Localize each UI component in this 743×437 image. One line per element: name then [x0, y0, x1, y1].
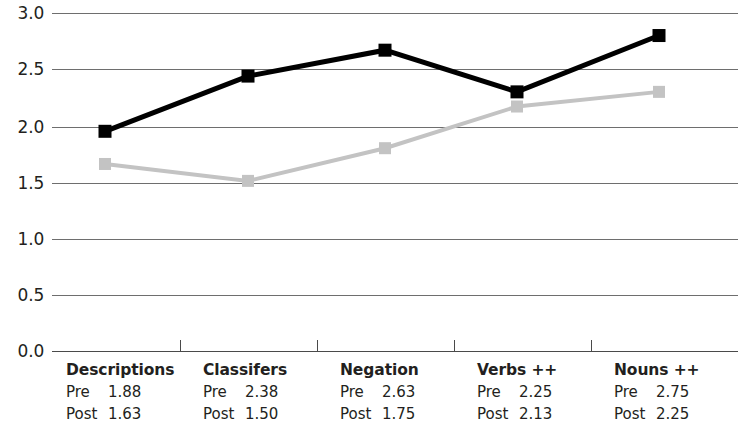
category-block-nouns: Nouns ++ Pre2.75 Post2.25 — [614, 360, 700, 425]
data-point-marker-post-4 — [653, 86, 665, 98]
pre-label: Pre — [340, 381, 382, 403]
category-pre-row: Pre2.38 — [203, 381, 287, 403]
series-layer — [0, 0, 743, 360]
category-label: Verbs ++ — [477, 360, 557, 381]
category-post-row: Post2.25 — [614, 403, 700, 425]
category-post-row: Post1.50 — [203, 403, 287, 425]
category-pre-row: Pre2.25 — [477, 381, 557, 403]
post-label: Post — [203, 403, 245, 425]
category-label: Nouns ++ — [614, 360, 700, 381]
data-point-marker-pre-2 — [379, 44, 392, 57]
pre-value: 1.88 — [108, 381, 141, 403]
post-label: Post — [477, 403, 519, 425]
data-point-marker-post-1 — [242, 175, 254, 187]
category-post-row: Post2.13 — [477, 403, 557, 425]
category-post-row: Post1.75 — [340, 403, 419, 425]
data-point-marker-pre-4 — [653, 29, 666, 42]
category-pre-row: Pre2.75 — [614, 381, 700, 403]
pre-value: 2.63 — [382, 381, 415, 403]
post-label: Post — [66, 403, 108, 425]
pre-value: 2.38 — [245, 381, 278, 403]
pre-label: Pre — [203, 381, 245, 403]
chart-container: 3.0 2.5 2.0 1.5 1.0 0.5 0.0 Descriptions… — [0, 0, 743, 437]
post-value: 1.63 — [108, 403, 141, 425]
series-line-post — [105, 92, 659, 181]
data-point-marker-post-3 — [511, 101, 523, 113]
data-point-marker-post-0 — [99, 158, 111, 170]
category-pre-row: Pre1.88 — [66, 381, 174, 403]
category-post-row: Post1.63 — [66, 403, 174, 425]
post-value: 2.13 — [519, 403, 552, 425]
post-value: 1.50 — [245, 403, 278, 425]
category-label: Classifers — [203, 360, 287, 381]
pre-label: Pre — [477, 381, 519, 403]
category-pre-row: Pre2.63 — [340, 381, 419, 403]
category-block-verbs: Verbs ++ Pre2.25 Post2.13 — [477, 360, 557, 425]
data-point-marker-post-2 — [379, 142, 391, 154]
category-block-classifers: Classifers Pre2.38 Post1.50 — [203, 360, 287, 425]
post-label: Post — [614, 403, 656, 425]
pre-label: Pre — [614, 381, 656, 403]
post-label: Post — [340, 403, 382, 425]
category-label: Descriptions — [66, 360, 174, 381]
category-block-descriptions: Descriptions Pre1.88 Post1.63 — [66, 360, 174, 425]
category-label: Negation — [340, 360, 419, 381]
data-point-marker-pre-3 — [511, 85, 524, 98]
post-value: 1.75 — [382, 403, 415, 425]
pre-label: Pre — [66, 381, 108, 403]
category-value-table: Descriptions Pre1.88 Post1.63 Classifers… — [0, 360, 743, 437]
pre-value: 2.75 — [656, 381, 689, 403]
category-block-negation: Negation Pre2.63 Post1.75 — [340, 360, 419, 425]
data-point-marker-pre-0 — [99, 125, 112, 138]
pre-value: 2.25 — [519, 381, 552, 403]
post-value: 2.25 — [656, 403, 689, 425]
data-point-marker-pre-1 — [242, 70, 255, 83]
